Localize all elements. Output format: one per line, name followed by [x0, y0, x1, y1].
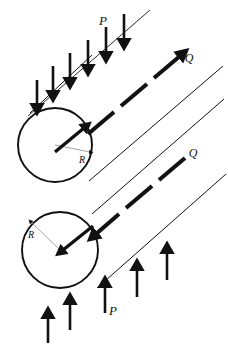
q-label-upper: Q [185, 51, 194, 65]
figure-canvas: P P Q Q R R [0, 0, 228, 351]
p-label-top: P [98, 13, 107, 28]
r-label-lower: R [27, 229, 34, 240]
mechanics-diagram: P P Q Q R R [0, 0, 228, 351]
q-label-lower: Q [189, 146, 198, 160]
p-label-bottom: P [108, 303, 117, 318]
r-label-upper: R [78, 154, 85, 165]
